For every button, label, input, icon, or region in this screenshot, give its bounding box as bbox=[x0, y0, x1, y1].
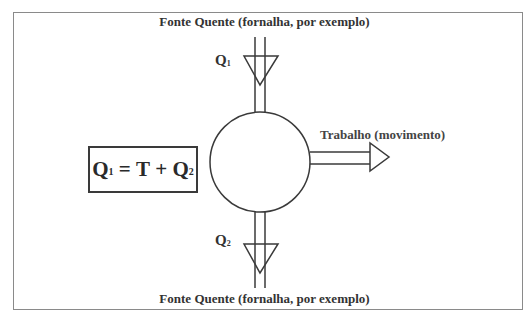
eq-equals: = bbox=[114, 157, 136, 182]
eq-rhs-symbol: Q bbox=[172, 157, 188, 182]
heat-in-label: Q1 bbox=[215, 52, 231, 69]
heat-out-symbol: Q bbox=[215, 232, 227, 248]
work-output-arrow-icon bbox=[370, 143, 389, 171]
eq-lhs-subscript: 1 bbox=[109, 166, 114, 177]
bottom-source-label: Fonte Quente (fornalha, por exemplo) bbox=[0, 291, 529, 307]
heat-output-arrow-icon bbox=[244, 244, 278, 273]
work-output-pipe bbox=[310, 152, 370, 164]
heat-output-pipe bbox=[255, 211, 265, 288]
eq-rhs-subscript: 2 bbox=[189, 166, 194, 177]
heat-in-subscript: 1 bbox=[227, 59, 231, 68]
heat-input-arrow-icon bbox=[244, 56, 278, 85]
eq-plus: + bbox=[150, 157, 172, 182]
heat-in-symbol: Q bbox=[215, 52, 227, 68]
work-output-label: Trabalho (movimento) bbox=[320, 127, 445, 143]
eq-term-work: T bbox=[136, 157, 150, 182]
energy-equation-box: Q1 = T + Q2 bbox=[88, 146, 198, 193]
heat-out-label: Q2 bbox=[215, 232, 231, 249]
eq-lhs-symbol: Q bbox=[92, 157, 108, 182]
engine-circle bbox=[210, 112, 310, 212]
heat-engine-diagram bbox=[0, 0, 529, 322]
heat-out-subscript: 2 bbox=[227, 239, 231, 248]
top-source-label: Fonte Quente (fornalha, por exemplo) bbox=[0, 14, 529, 30]
heat-input-pipe bbox=[255, 37, 265, 113]
